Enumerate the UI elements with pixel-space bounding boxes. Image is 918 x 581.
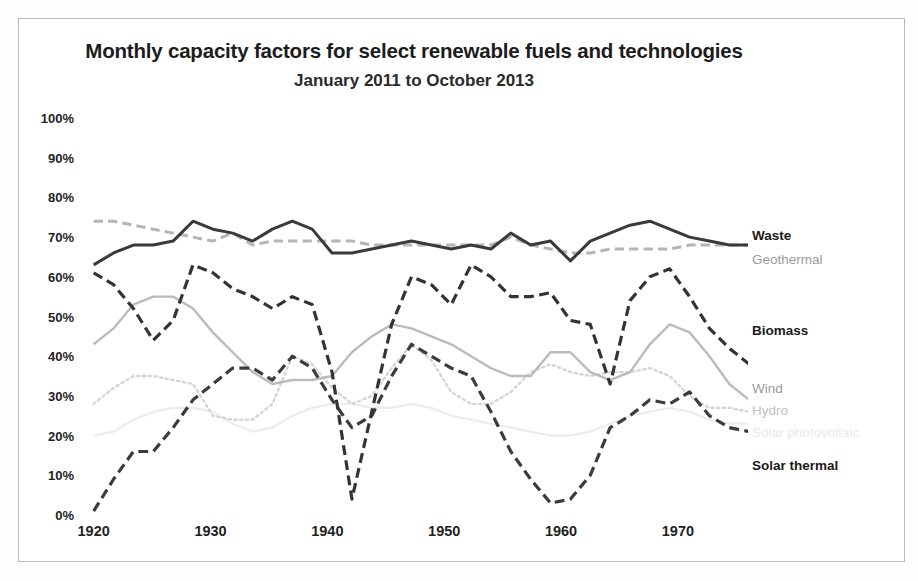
series-line-solar-photovoltaic xyxy=(94,404,748,436)
chart-lines xyxy=(82,118,748,515)
page-footer-caption xyxy=(24,570,894,581)
y-axis-tick-label: 80% xyxy=(26,190,74,205)
series-label-hydro: Hydro xyxy=(752,404,788,418)
x-axis-tick-label: 1940 xyxy=(292,523,362,539)
series-line-waste xyxy=(94,221,748,265)
plot-area xyxy=(82,118,748,515)
y-axis-tick-label: 50% xyxy=(26,309,74,324)
y-axis-tick-label: 100% xyxy=(26,111,74,126)
y-axis-tick-label: 30% xyxy=(26,388,74,403)
series-line-geothermal xyxy=(94,221,748,253)
series-label-biomass: Biomass xyxy=(752,324,808,338)
page-title: Monthly capacity factors for select rene… xyxy=(19,39,809,63)
y-axis-tick-label: 40% xyxy=(26,349,74,364)
x-axis-tick-label: 1930 xyxy=(176,523,246,539)
chart-subtitle: January 2011 to October 2013 xyxy=(19,71,809,91)
series-label-geothermal: Geothermal xyxy=(752,253,823,267)
y-axis-tick-label: 0% xyxy=(26,508,74,523)
x-axis-tick-label: 1970 xyxy=(643,523,713,539)
x-axis: 192019301940195019601970 xyxy=(82,523,762,545)
series-label-solar-photovoltaic: Solar photovoltaic xyxy=(752,426,859,440)
x-axis-tick-label: 1950 xyxy=(409,523,479,539)
series-line-biomass xyxy=(94,265,748,499)
page-background: Monthly capacity factors for select rene… xyxy=(0,0,918,581)
y-axis: 0%10%20%30%40%50%60%70%80%90%100% xyxy=(22,118,74,515)
y-axis-tick-label: 20% xyxy=(26,428,74,443)
series-label-solar-thermal: Solar thermal xyxy=(752,459,838,473)
series-label-waste: Waste xyxy=(752,229,791,243)
x-axis-tick-label: 1960 xyxy=(526,523,596,539)
y-axis-tick-label: 10% xyxy=(26,468,74,483)
x-axis-tick-label: 1920 xyxy=(59,523,129,539)
y-axis-tick-label: 60% xyxy=(26,269,74,284)
y-axis-tick-label: 90% xyxy=(26,150,74,165)
series-label-wind: Wind xyxy=(752,382,783,396)
y-axis-tick-label: 70% xyxy=(26,230,74,245)
